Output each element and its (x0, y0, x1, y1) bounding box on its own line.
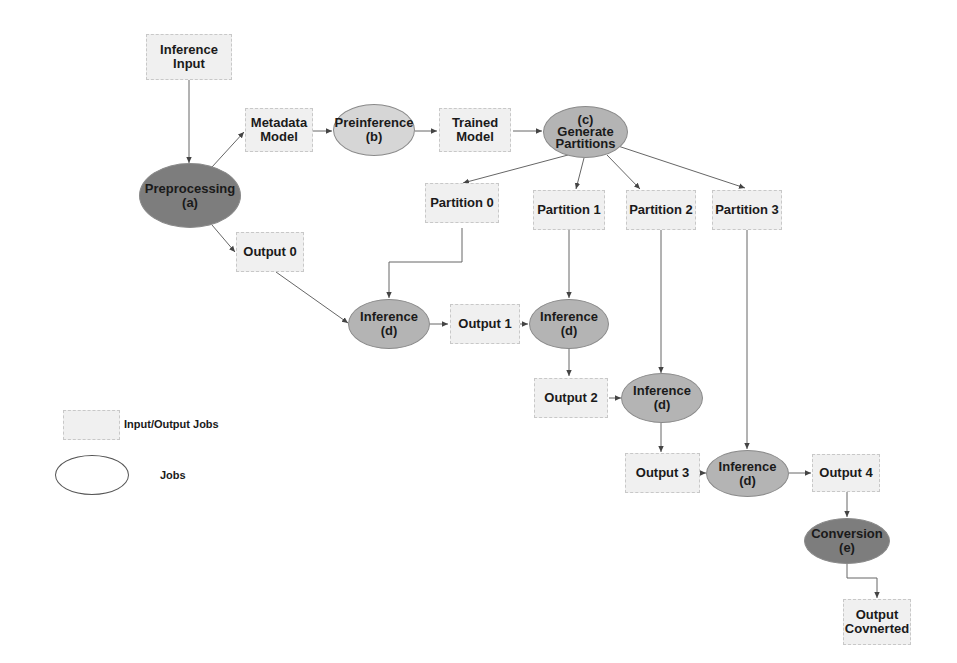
node-label: Output (845, 608, 909, 622)
node-label: Partition 0 (430, 196, 494, 210)
legend-box-swatch (63, 410, 120, 440)
node-inference-2: Inference (d) (529, 299, 609, 349)
node-output-1: Output 1 (450, 304, 520, 344)
node-inference-4: Inference (d) (706, 450, 789, 497)
node-label: (d) (719, 474, 777, 488)
node-label: Partition 2 (629, 203, 693, 217)
node-partition-3: Partition 3 (712, 190, 782, 230)
workflow-diagram: Inference Input Preprocessing (a) Metada… (0, 0, 957, 663)
node-label: Preprocessing (145, 182, 235, 196)
node-partition-1: Partition 1 (533, 190, 605, 230)
node-conversion: Conversion (e) (804, 518, 890, 564)
node-preprocessing: Preprocessing (a) (139, 163, 241, 228)
node-output-2: Output 2 (534, 378, 608, 418)
node-label: Metadata (251, 116, 307, 130)
edge-conversion-outputconverted (847, 563, 877, 598)
edge-output0-inference1 (276, 272, 348, 323)
node-label: Inference (719, 460, 777, 474)
node-label: Model (251, 130, 307, 144)
node-output-3: Output 3 (625, 453, 700, 493)
node-label: Partition 1 (537, 203, 601, 217)
node-label: Preinference (335, 116, 414, 130)
legend-ellipse-label: Jobs (160, 469, 186, 481)
node-label: Input (160, 57, 218, 71)
node-label: Model (452, 130, 498, 144)
legend-box-label: Input/Output Jobs (124, 418, 219, 430)
node-label: (a) (145, 196, 235, 210)
node-label: Output 0 (243, 245, 296, 259)
legend-ellipse-swatch (55, 455, 129, 495)
edge-generate-partition2 (607, 155, 640, 189)
node-label: Inference (633, 384, 691, 398)
node-label: (d) (633, 398, 691, 412)
node-label: Inference (160, 43, 218, 57)
node-output-4: Output 4 (812, 454, 880, 492)
node-label: (e) (811, 541, 883, 555)
node-label: Covnerted (845, 622, 909, 636)
node-label: Inference (360, 310, 418, 324)
node-metadata-model: Metadata Model (245, 108, 313, 152)
node-generate-partitions: (c) Generate Partitions (543, 106, 628, 158)
node-label: Output 2 (544, 391, 597, 405)
node-output-converted: Output Covnerted (843, 599, 911, 645)
node-label: Output 1 (458, 317, 511, 331)
node-inference-3: Inference (d) (621, 373, 703, 423)
node-label: (b) (335, 130, 414, 144)
node-label: Conversion (811, 527, 883, 541)
node-label: Output 4 (819, 466, 872, 480)
edge-generate-partition0 (463, 155, 568, 183)
edge-preprocessing-output0 (212, 225, 235, 252)
node-label: Output 3 (636, 466, 689, 480)
edge-generate-partition3 (618, 146, 745, 188)
node-label: Inference (540, 310, 598, 324)
node-label: Partitions (556, 138, 616, 150)
edge-partition0-inference1 (389, 228, 462, 298)
node-output-0: Output 0 (236, 232, 304, 272)
node-trained-model: Trained Model (439, 108, 511, 152)
node-label: Trained (452, 116, 498, 130)
node-label: (d) (360, 324, 418, 338)
edge-preprocessing-metadata (212, 132, 244, 167)
node-partition-2: Partition 2 (626, 190, 696, 230)
node-preinference: Preinference (b) (333, 104, 415, 156)
node-inference-1: Inference (d) (348, 299, 430, 349)
node-label: Partition 3 (715, 203, 779, 217)
edge-generate-partition1 (576, 158, 584, 189)
node-inference-input: Inference Input (146, 34, 232, 80)
node-label: (d) (540, 324, 598, 338)
node-partition-0: Partition 0 (425, 183, 499, 223)
